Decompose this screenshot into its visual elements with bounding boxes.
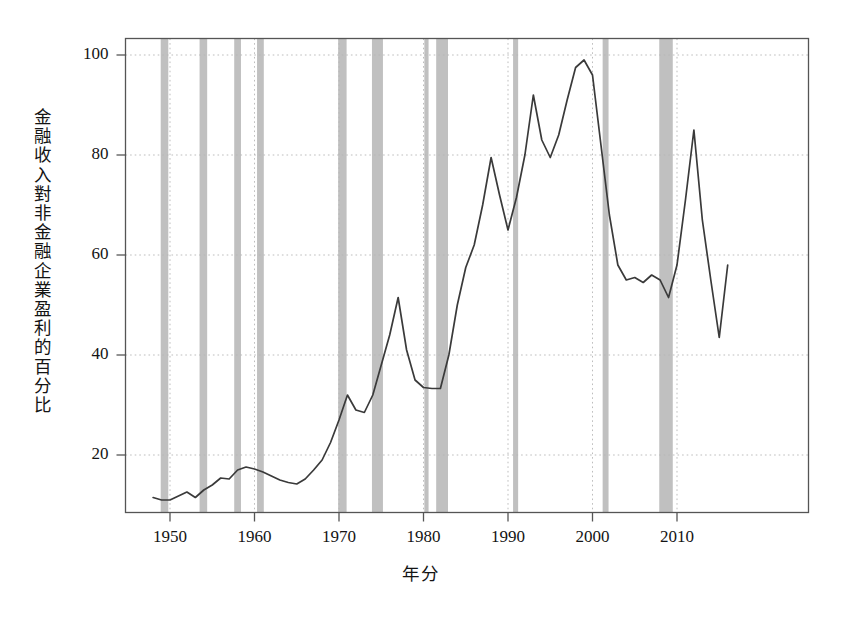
recession-band: [200, 39, 208, 513]
recession-band: [161, 39, 169, 513]
recession-band: [659, 39, 673, 513]
recession-band: [513, 39, 518, 513]
recession-band: [372, 39, 383, 513]
y-tick-label: 100: [63, 44, 109, 64]
y-tick-label: 80: [63, 144, 109, 164]
y-tick-label: 20: [63, 444, 109, 464]
x-tick-label: 1970: [309, 527, 369, 547]
y-axis-title: 金融收入對非金融企業盈利的百分比: [24, 108, 58, 468]
x-tick-label: 2000: [563, 527, 623, 547]
recession-band: [257, 39, 264, 513]
plot-axes: [126, 39, 809, 513]
x-axis-title: 年分: [0, 560, 842, 585]
x-tick-label: 1990: [478, 527, 538, 547]
x-tick-label: 2010: [647, 527, 707, 547]
y-tick-label: 40: [63, 344, 109, 364]
plot-border: [126, 39, 809, 513]
recession-band: [436, 39, 448, 513]
gridlines: [126, 39, 809, 513]
x-tick-label: 1960: [225, 527, 285, 547]
x-tick-label: 1980: [394, 527, 454, 547]
recession-band: [603, 39, 609, 513]
y-tick-label: 60: [63, 244, 109, 264]
x-tick-label: 1950: [140, 527, 200, 547]
recession-band: [234, 39, 241, 513]
y-axis-title-text: 金融收入對非金融企業盈利的百分比: [32, 108, 50, 415]
recession-band: [338, 39, 346, 513]
chart-figure: 金融收入對非金融企業盈利的百分比 年分 20406080100 19501960…: [0, 0, 842, 626]
recession-band: [424, 39, 428, 513]
